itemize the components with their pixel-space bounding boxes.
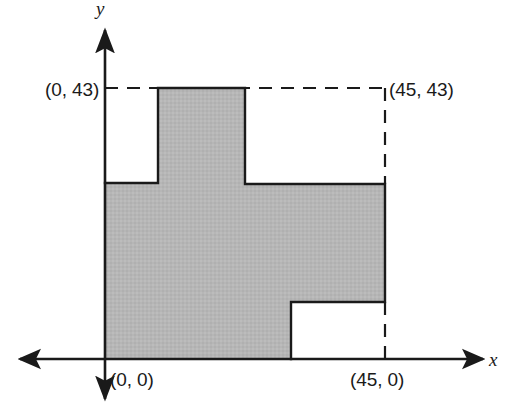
y-axis-label: y	[96, 0, 104, 18]
x-axis-label: x	[489, 350, 497, 369]
coordinate-plane-figure: y x (0, 43) (45, 43) (0, 0) (45, 0)	[0, 0, 506, 415]
figure-canvas	[0, 0, 506, 415]
point-label-bottom-right: (45, 0)	[350, 370, 404, 389]
point-label-top-left: (0, 43)	[45, 80, 99, 99]
point-label-origin: (0, 0)	[110, 370, 154, 389]
point-label-top-right: (45, 43)	[389, 80, 454, 99]
